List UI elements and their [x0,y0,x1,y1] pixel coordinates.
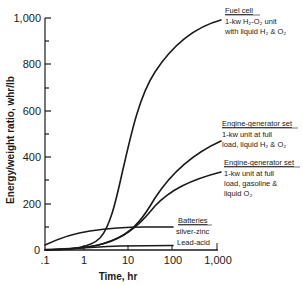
svg-text:1-kw H₂-O₂ unit: 1-kw H₂-O₂ unit [225,17,278,26]
y-tick-0: 0 [34,244,40,256]
svg-text:silver-zinc: silver-zinc [176,227,210,236]
x-tick-1: 1 [81,254,87,266]
annotation-engine-generator-gasoline: Engine-generator set 1-kw unit at full l… [224,158,300,198]
x-axis-title: Time, hr [99,271,138,282]
svg-text:1-kw unit at full: 1-kw unit at full [222,130,272,139]
svg-text:1-kw unit at full: 1-kw unit at full [224,169,274,178]
x-tick-100: 100 [164,254,182,266]
x-tick-0.1: .1 [40,254,49,266]
svg-text:Fuel cell: Fuel cell [225,6,253,15]
y-tick-400: 400 [23,151,41,163]
y-tick-600: 600 [23,105,41,117]
x-tick-1000: 1,000 [204,254,232,266]
svg-text:Lead-acid: Lead-acid [177,238,210,247]
y-tick-200: 200 [23,198,41,210]
annotation-fuel-cell: Fuel cell 1-kw H₂-O₂ unit with liquid H₂… [224,6,286,36]
svg-text:liquid O₂: liquid O₂ [224,189,252,198]
svg-text:Engine-generator set: Engine-generator set [224,158,295,167]
svg-text:with liquid H₂ & O₂: with liquid H₂ & O₂ [224,27,286,36]
annotation-batteries: Batteries silver-zinc [176,216,212,236]
chart: 1,000 800 600 400 200 0 .1 1 10 100 1,00… [0,0,303,285]
svg-text:load, gasoline &: load, gasoline & [224,179,277,188]
x-tick-10: 10 [122,254,134,266]
annotation-lead-acid: Lead-acid [177,238,210,247]
svg-text:Engine-generator set: Engine-generator set [222,119,293,128]
annotation-engine-generator-h2-o2: Engine-generator set 1-kw unit at full l… [222,119,298,149]
series-lead-acid [45,246,173,250]
y-tick-800: 800 [23,58,41,70]
svg-text:load, liquid H₂ & O₂: load, liquid H₂ & O₂ [222,140,286,149]
y-axis-title: Energy/weight ratio, whr/lb [5,76,16,204]
y-axis [45,18,51,250]
y-tick-1000: 1,000 [13,12,41,24]
svg-text:Batteries: Batteries [178,216,208,225]
